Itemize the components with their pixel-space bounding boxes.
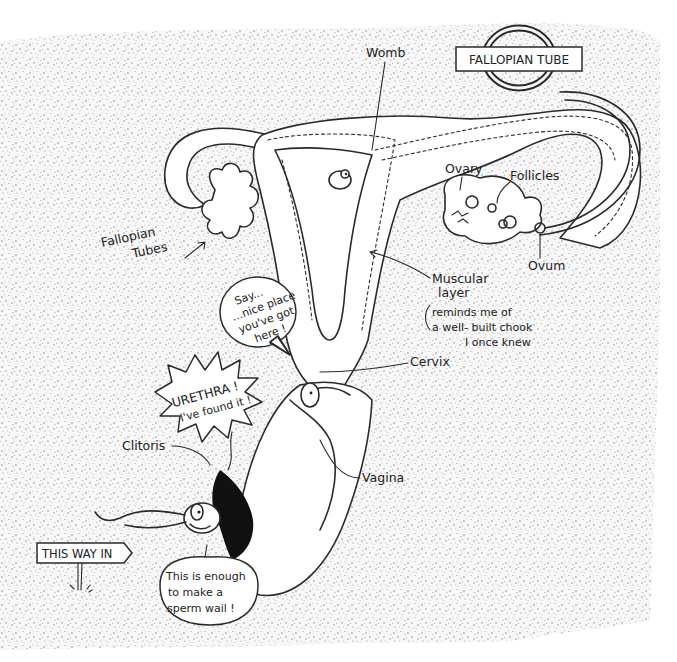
label-cervix: Cervix [410, 354, 450, 369]
label-muscular-aside-2: a well- built chook [432, 321, 533, 334]
label-clitoris: Clitoris [122, 438, 165, 453]
label-muscular-2: layer [438, 285, 470, 300]
label-ovum: Ovum [528, 258, 565, 273]
svg-text:sperm wail !: sperm wail ! [167, 602, 235, 615]
svg-text:This is enough: This is enough [165, 570, 246, 583]
label-womb: Womb [366, 45, 405, 60]
svg-text:to make a: to make a [168, 586, 223, 599]
label-ovary: Ovary [445, 161, 483, 176]
label-muscular-1: Muscular [432, 271, 489, 286]
sign-label: FALLOPIAN TUBE [469, 53, 569, 67]
label-muscular-aside-3: I once knew [465, 336, 531, 349]
cervix-creature [301, 383, 319, 407]
label-vagina: Vagina [362, 470, 404, 485]
signpost-label: THIS WAY IN [41, 547, 112, 561]
label-muscular-aside-1: reminds me of [432, 306, 513, 319]
diagram-canvas: FALLOPIAN TUBE Womb Fallopian Tubes Ovar… [0, 0, 677, 662]
label-follicles: Follicles [510, 168, 559, 183]
